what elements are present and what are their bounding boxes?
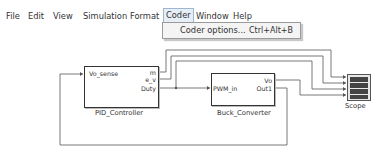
port-vo: Vo — [264, 77, 272, 85]
scope-label: Scope — [345, 102, 366, 111]
scope-trace-icon — [350, 83, 368, 88]
port-e-v: e_v — [145, 76, 156, 84]
buck-converter-block[interactable]: PWM_in Vo Out1 — [211, 73, 275, 106]
port-duty: Duty — [141, 85, 156, 93]
scope-block[interactable] — [347, 74, 371, 101]
signal-lines — [0, 0, 391, 157]
wire-vo-to-scope — [274, 80, 346, 95]
scope-trace-icon — [350, 95, 368, 100]
port-pwm-in: PWM_in — [213, 85, 237, 93]
port-out1: Out1 — [257, 85, 272, 93]
pid-controller-block[interactable]: Vo_sense m e_v Duty — [84, 66, 159, 108]
scope-trace-icon — [350, 89, 368, 94]
buck-converter-label: Buck_Converter — [217, 109, 271, 118]
branch-point — [175, 87, 177, 89]
pid-controller-label: PID_Controller — [95, 109, 143, 118]
port-vo-sense: Vo_sense — [89, 70, 118, 78]
scope-trace-icon — [350, 77, 368, 82]
